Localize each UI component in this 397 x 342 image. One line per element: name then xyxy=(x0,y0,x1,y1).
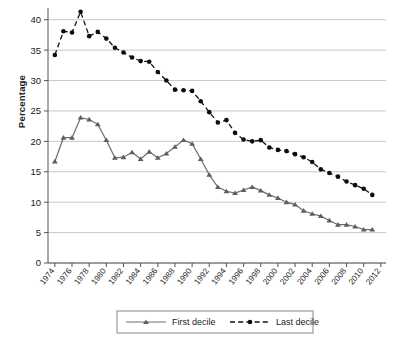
y-tick-label: 30 xyxy=(30,75,41,86)
data-point-last-decile[interactable] xyxy=(70,30,75,35)
data-point-last-decile[interactable] xyxy=(138,59,143,64)
data-point-last-decile[interactable] xyxy=(353,183,358,188)
data-point-first-decile[interactable] xyxy=(249,184,255,189)
x-tick-label: 2004 xyxy=(295,266,314,286)
y-tick-label: 40 xyxy=(30,14,41,25)
data-point-last-decile[interactable] xyxy=(190,89,195,94)
data-point-last-decile[interactable] xyxy=(344,179,349,184)
x-tick-label: 2006 xyxy=(313,266,332,286)
data-point-first-decile[interactable] xyxy=(103,138,109,143)
data-point-last-decile[interactable] xyxy=(95,30,100,35)
data-point-last-decile[interactable] xyxy=(113,45,118,50)
data-point-last-decile[interactable] xyxy=(336,174,341,179)
data-point-last-decile[interactable] xyxy=(198,99,203,104)
data-point-last-decile[interactable] xyxy=(293,152,298,157)
data-point-last-decile[interactable] xyxy=(276,148,281,153)
chart-container: Percentage 05101520253035401974197619781… xyxy=(0,0,397,342)
data-point-last-decile[interactable] xyxy=(267,145,272,150)
data-point-first-decile[interactable] xyxy=(326,218,332,223)
data-point-last-decile[interactable] xyxy=(87,34,92,39)
data-point-last-decile[interactable] xyxy=(258,138,263,143)
x-tick-label: 1976 xyxy=(55,266,74,286)
y-tick-label: 20 xyxy=(30,136,41,147)
x-tick-label: 1974 xyxy=(38,266,57,286)
x-tick-label: 1998 xyxy=(244,266,263,286)
data-point-last-decile[interactable] xyxy=(104,36,109,41)
data-point-last-decile[interactable] xyxy=(233,131,238,136)
data-point-last-decile[interactable] xyxy=(78,10,83,15)
data-point-last-decile[interactable] xyxy=(370,193,375,198)
y-tick-label: 15 xyxy=(30,166,41,177)
data-point-first-decile[interactable] xyxy=(206,172,212,177)
data-point-first-decile[interactable] xyxy=(95,122,101,127)
x-tick-label: 2010 xyxy=(347,266,366,286)
data-point-last-decile[interactable] xyxy=(181,88,186,93)
data-point-first-decile[interactable] xyxy=(266,192,272,197)
data-point-last-decile[interactable] xyxy=(147,59,152,64)
legend-marker-last-decile xyxy=(248,320,253,325)
x-tick-label: 1994 xyxy=(210,266,229,286)
data-point-last-decile[interactable] xyxy=(130,55,135,60)
x-tick-label: 1988 xyxy=(158,266,177,286)
x-tick-label: 1996 xyxy=(227,266,246,286)
data-point-last-decile[interactable] xyxy=(284,149,289,154)
series-line-last-decile xyxy=(55,12,372,195)
data-point-first-decile[interactable] xyxy=(146,149,152,154)
y-axis-title: Percentage xyxy=(16,57,27,147)
y-tick-label: 0 xyxy=(36,257,41,268)
x-tick-label: 2002 xyxy=(278,266,297,286)
data-point-last-decile[interactable] xyxy=(207,110,212,115)
data-point-last-decile[interactable] xyxy=(310,160,315,165)
y-tick-label: 10 xyxy=(30,197,41,208)
data-point-last-decile[interactable] xyxy=(241,137,246,142)
x-tick-label: 2008 xyxy=(330,266,349,286)
legend-label-last-decile: Last decile xyxy=(276,317,319,327)
data-point-last-decile[interactable] xyxy=(121,50,126,55)
data-point-first-decile[interactable] xyxy=(129,150,135,155)
x-tick-label: 1992 xyxy=(193,266,212,286)
x-tick-label: 1990 xyxy=(175,266,194,286)
data-point-first-decile[interactable] xyxy=(224,189,230,194)
data-point-last-decile[interactable] xyxy=(224,118,229,123)
data-point-first-decile[interactable] xyxy=(78,115,84,120)
data-point-last-decile[interactable] xyxy=(327,171,332,176)
data-point-last-decile[interactable] xyxy=(53,53,58,58)
data-point-first-decile[interactable] xyxy=(198,156,204,161)
legend-label-first-decile: First decile xyxy=(172,317,216,327)
data-point-last-decile[interactable] xyxy=(173,87,178,92)
x-tick-label: 2012 xyxy=(364,266,383,286)
data-point-last-decile[interactable] xyxy=(216,120,221,125)
y-tick-label: 35 xyxy=(30,45,41,56)
data-point-last-decile[interactable] xyxy=(61,29,66,34)
x-tick-label: 1980 xyxy=(90,266,109,286)
x-tick-label: 1984 xyxy=(124,266,143,286)
data-point-last-decile[interactable] xyxy=(156,70,161,75)
y-tick-label: 5 xyxy=(36,227,41,238)
x-tick-label: 1982 xyxy=(107,266,126,286)
series-line-first-decile xyxy=(55,118,372,230)
data-point-last-decile[interactable] xyxy=(250,139,255,144)
x-tick-label: 2000 xyxy=(261,266,280,286)
data-point-last-decile[interactable] xyxy=(361,187,366,192)
x-tick-label: 1978 xyxy=(72,266,91,286)
data-point-first-decile[interactable] xyxy=(181,138,187,143)
data-point-last-decile[interactable] xyxy=(319,167,324,172)
data-point-last-decile[interactable] xyxy=(164,78,169,83)
x-tick-label: 1986 xyxy=(141,266,160,286)
data-point-last-decile[interactable] xyxy=(301,155,306,160)
chart-svg: 0510152025303540197419761978198019821984… xyxy=(0,0,397,342)
y-tick-label: 25 xyxy=(30,105,41,116)
data-point-first-decile[interactable] xyxy=(52,159,58,164)
